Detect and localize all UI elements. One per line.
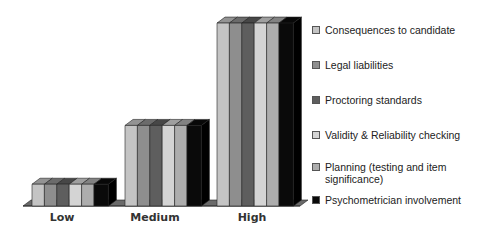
legend-swatch-icon (312, 96, 320, 104)
bar (242, 23, 254, 206)
bar (57, 184, 69, 206)
bar (217, 23, 229, 206)
bar (162, 125, 174, 206)
legend-item-planning: Planning (testing and item significance) (312, 161, 475, 185)
legend-label: Proctoring standards (325, 94, 475, 106)
legend-label: Validity & Reliability checking (325, 129, 475, 141)
bar (187, 125, 201, 206)
bar-group-medium (125, 119, 209, 206)
bar (44, 184, 56, 206)
legend-item-proctoring: Proctoring standards (312, 94, 475, 106)
legend-label: Psychometrician involvement (325, 194, 475, 206)
bar (94, 184, 108, 206)
legend-swatch-icon (312, 163, 320, 171)
bar (279, 23, 293, 206)
bar (82, 184, 94, 206)
bar (229, 23, 241, 206)
bar (69, 184, 81, 206)
legend-item-consequences: Consequences to candidate (312, 24, 475, 36)
category-label-high: High (212, 211, 292, 224)
bar-group-low (32, 178, 116, 206)
category-label-low: Low (22, 211, 102, 224)
bar (32, 184, 44, 206)
bar-chart-plot (0, 0, 310, 238)
bar (137, 125, 149, 206)
bar-group-high (217, 17, 301, 206)
legend-label: Legal liabilities (325, 59, 475, 71)
bar-groups (32, 17, 301, 206)
legend-item-legal: Legal liabilities (312, 59, 475, 71)
legend-label: Consequences to candidate (325, 24, 475, 36)
legend-swatch-icon (312, 196, 320, 204)
bar (175, 125, 187, 206)
category-label-medium: Medium (115, 211, 195, 224)
bar (254, 23, 266, 206)
legend-item-validity: Validity & Reliability checking (312, 129, 475, 141)
legend-swatch-icon (312, 26, 320, 34)
legend-swatch-icon (312, 61, 320, 69)
legend-item-psychometrician: Psychometrician involvement (312, 194, 475, 206)
legend-swatch-icon (312, 131, 320, 139)
bar (125, 125, 137, 206)
bar (150, 125, 162, 206)
bar (267, 23, 279, 206)
legend-label: Planning (testing and item significance) (325, 161, 475, 185)
